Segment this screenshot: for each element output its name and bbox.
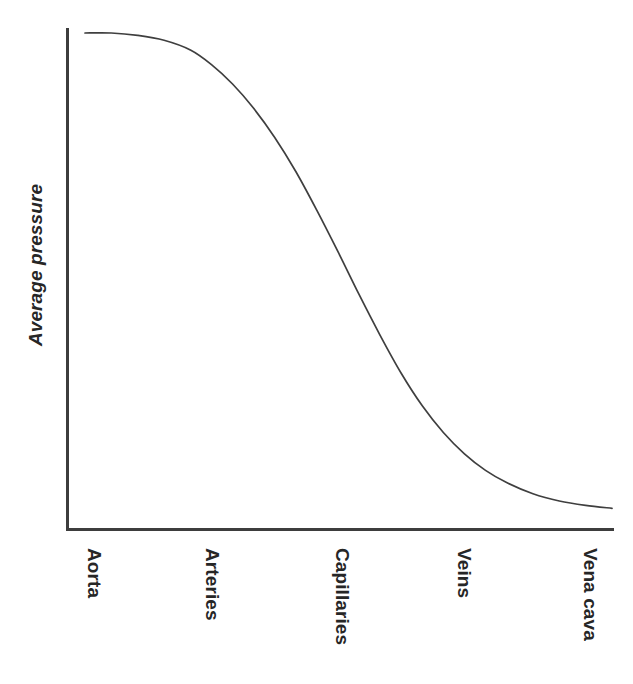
x-tick-label-arteries: Arteries xyxy=(201,548,223,621)
pressure-chart-figure: Average pressure Aorta Arteries Capillar… xyxy=(0,0,633,684)
x-tick-label-veins: Veins xyxy=(453,548,475,598)
y-axis-title: Average pressure xyxy=(25,184,47,346)
x-tick-label-aorta: Aorta xyxy=(83,548,105,598)
pressure-curve xyxy=(85,33,612,508)
x-tick-label-vena-cava: Vena cava xyxy=(579,548,601,641)
x-tick-label-capillaries: Capillaries xyxy=(331,548,353,645)
